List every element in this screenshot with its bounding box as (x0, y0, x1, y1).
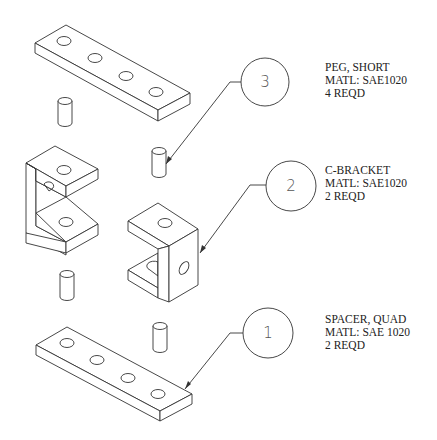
c-bracket-right (128, 203, 198, 302)
note-c-bracket-material: MATL: SAE1020 (325, 177, 407, 190)
peg-2 (152, 148, 166, 178)
peg-3 (60, 271, 74, 301)
peg-1 (58, 98, 72, 127)
note-spacer-material: MATL: SAE 1020 (325, 326, 410, 339)
hole (57, 166, 71, 175)
note-peg-material: MATL: SAE1020 (325, 74, 407, 87)
spacer-bottom (36, 327, 192, 421)
note-c-bracket: C-BRACKET MATL: SAE1020 2 REQD (325, 164, 407, 203)
hole (149, 88, 163, 97)
hole (119, 72, 133, 81)
assembly-drawing: 3 2 1 PEG, SHORT MATL: SAE1020 4 REQD C-… (0, 0, 437, 440)
balloon-3-number: 3 (240, 72, 290, 92)
hole (57, 37, 71, 46)
c-bracket-left (26, 146, 98, 255)
balloon-1-number: 1 (243, 323, 293, 343)
note-spacer-quad: SPACER, QUAD MATL: SAE 1020 2 REQD (325, 313, 410, 352)
balloon-2-number: 2 (266, 176, 316, 196)
note-c-bracket-title: C-BRACKET (325, 164, 407, 177)
note-spacer-title: SPACER, QUAD (325, 313, 410, 326)
leader-1 (185, 333, 243, 389)
note-spacer-quantity: 2 REQD (325, 339, 410, 352)
note-peg-title: PEG, SHORT (325, 61, 407, 74)
hole (59, 218, 73, 227)
leader-2 (200, 185, 266, 253)
hole (158, 219, 172, 228)
note-c-bracket-quantity: 2 REQD (325, 190, 407, 203)
note-peg-short: PEG, SHORT MATL: SAE1020 4 REQD (325, 61, 407, 100)
hole (60, 339, 74, 348)
hole (90, 356, 104, 365)
hole (88, 54, 102, 63)
peg-4 (153, 323, 167, 353)
hole (151, 390, 165, 399)
hole (121, 374, 135, 383)
note-peg-quantity: 4 REQD (325, 87, 407, 100)
